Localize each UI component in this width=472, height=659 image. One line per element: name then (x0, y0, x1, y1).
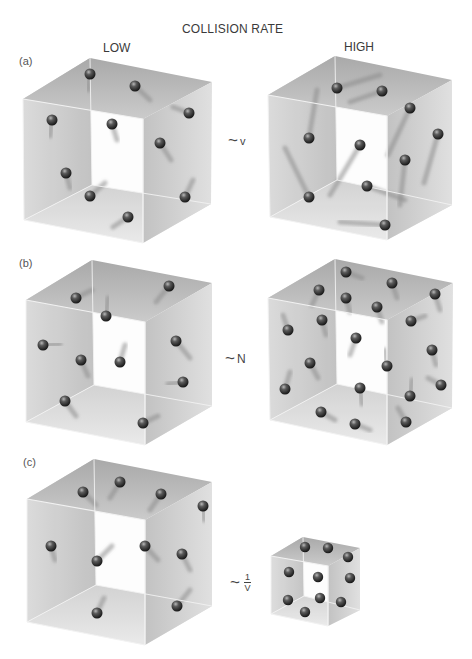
gas-molecule (380, 220, 391, 231)
inverse-volume-fraction: 1 V (244, 572, 251, 593)
gas-molecule (362, 181, 373, 192)
relation-variable: N (237, 352, 246, 366)
gas-molecule (433, 129, 444, 140)
proportional-symbol: ~ (230, 574, 240, 591)
gas-molecule (332, 83, 343, 94)
gas-molecule (92, 556, 103, 567)
gas-molecule (38, 340, 49, 351)
gas-molecule (336, 597, 346, 607)
gas-molecule (382, 361, 393, 372)
gas-molecule (184, 108, 195, 119)
gas-molecule (313, 572, 323, 582)
gas-molecule (198, 501, 209, 512)
gas-molecule (156, 489, 167, 500)
motion-trail (340, 222, 385, 225)
gas-molecule (115, 477, 126, 488)
gas-molecule (46, 541, 57, 552)
gas-molecule (405, 391, 416, 402)
gas-molecule (304, 133, 315, 144)
cube-b-high (268, 259, 453, 445)
gas-molecule (427, 345, 438, 356)
gas-molecule (71, 293, 82, 304)
gas-molecule (406, 316, 417, 327)
gas-molecule (387, 278, 398, 289)
gas-molecule (304, 192, 315, 203)
gas-molecule (305, 358, 316, 369)
gas-molecule (317, 315, 328, 326)
relation-velocity: ~ v (228, 132, 245, 149)
cube-front-face (27, 499, 145, 645)
proportional-symbol: ~ (228, 132, 238, 149)
cube-b-low (26, 260, 212, 445)
gas-molecule (405, 103, 416, 114)
gas-molecule (283, 595, 293, 605)
cube-a-high (268, 56, 452, 240)
gas-molecule (284, 567, 294, 577)
gas-molecule (76, 355, 87, 366)
gas-molecule (350, 419, 361, 430)
relation-variable: v (240, 135, 246, 147)
gas-molecule (315, 593, 325, 603)
gas-molecule (180, 192, 191, 203)
gas-molecule (107, 119, 118, 130)
gas-molecule (345, 573, 355, 583)
gas-molecule (316, 407, 327, 418)
gas-molecule (401, 417, 412, 428)
gas-molecule (323, 543, 333, 553)
gas-molecule (341, 267, 352, 278)
gas-molecule (172, 601, 183, 612)
gas-molecule (140, 541, 151, 552)
gas-molecule (138, 418, 149, 429)
gas-molecule (430, 289, 441, 300)
relation-volume: ~ 1 V (230, 572, 251, 593)
gas-molecule (283, 325, 294, 336)
gas-molecule (92, 608, 103, 619)
panel-label-b: (b) (19, 257, 32, 269)
gas-molecule (300, 542, 310, 552)
cube-a-low (23, 58, 212, 243)
gas-molecule (177, 549, 188, 560)
gas-molecule (377, 86, 388, 97)
cube-c-low (27, 459, 212, 645)
diagram-title: COLLISION RATE (182, 22, 283, 36)
gas-molecule (60, 396, 71, 407)
gas-molecule (400, 155, 411, 166)
gas-molecule (355, 383, 366, 394)
cube-front-face (268, 95, 387, 240)
gas-molecule (300, 607, 310, 617)
gas-molecule (61, 168, 72, 179)
gas-molecule (343, 552, 353, 562)
gas-molecule (178, 377, 189, 388)
gas-molecule (372, 302, 383, 313)
gas-molecule (355, 140, 366, 151)
gas-molecule (47, 115, 58, 126)
gas-molecule (115, 357, 126, 368)
column-label-low: LOW (103, 41, 130, 55)
gas-molecule (164, 281, 175, 292)
cube-c-high (271, 537, 360, 626)
gas-molecule (85, 69, 96, 80)
gas-molecule (341, 293, 352, 304)
column-label-high: HIGH (344, 40, 374, 54)
gas-molecule (314, 285, 325, 296)
gas-molecule (78, 487, 89, 498)
gas-molecule (130, 81, 141, 92)
gas-molecule (123, 212, 134, 223)
gas-molecule (171, 336, 182, 347)
gas-molecule (280, 384, 291, 395)
panel-label-a: (a) (19, 55, 32, 67)
panel-label-c: (c) (23, 456, 36, 468)
fraction-denominator: V (244, 583, 250, 593)
proportional-symbol: ~ (225, 350, 235, 367)
relation-number: ~ N (225, 350, 246, 367)
gas-molecule (85, 191, 96, 202)
gas-molecule (155, 138, 166, 149)
gas-molecule (101, 311, 112, 322)
gas-molecule (351, 333, 362, 344)
gas-molecule (436, 380, 447, 391)
fraction-numerator: 1 (244, 572, 251, 583)
collision-diagram (0, 0, 472, 659)
